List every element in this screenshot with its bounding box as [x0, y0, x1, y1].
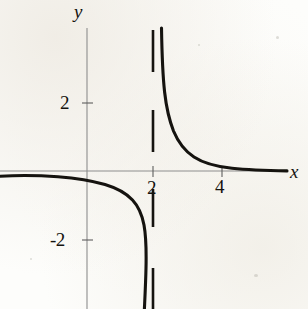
curve-group [0, 28, 287, 309]
y-tick-label-minus-2: -2 [50, 230, 65, 249]
plot-svg [0, 0, 308, 309]
y-tick-label-2: 2 [60, 93, 69, 112]
x-tick-label-2: 2 [147, 178, 156, 197]
curve-left-branch [0, 176, 146, 309]
x-axis-label: x [290, 162, 298, 181]
x-tick-label-4: 4 [215, 177, 224, 196]
curve-right-branch [162, 28, 288, 171]
y-axis-label: y [74, 2, 82, 21]
graph-figure: y x 2 -2 2 4 [0, 0, 308, 309]
